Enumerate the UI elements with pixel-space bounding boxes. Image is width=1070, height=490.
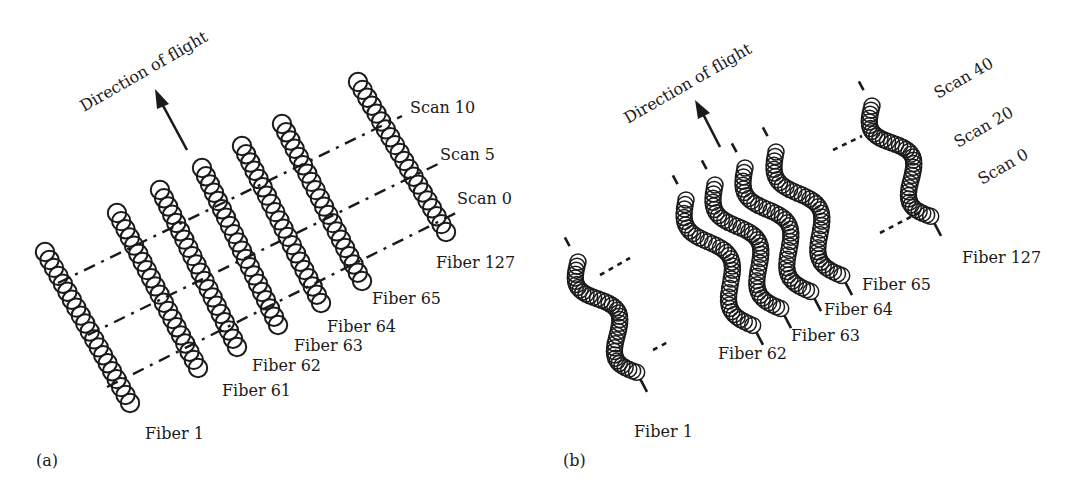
panel-label-a: (a): [36, 451, 58, 470]
fiber-label-1: Fiber 1: [634, 422, 693, 441]
fiber-label-64: Fiber 64: [824, 300, 893, 319]
direction-label: Direction of flight: [621, 39, 756, 128]
scan-label-40: Scan 40: [931, 53, 997, 102]
fiber-label-64: Fiber 64: [327, 317, 396, 336]
scan-label-0: Scan 0: [975, 144, 1032, 188]
fiber-label-62: Fiber 62: [718, 344, 787, 363]
panel-a: Direction of flight Scan 10 Scan 5 Scan …: [36, 27, 515, 470]
panel-b: Direction of flight Scan 40 Scan 20 Scan…: [563, 39, 1041, 470]
scan-label-0: Scan 0: [457, 189, 512, 208]
direction-label: Direction of flight: [77, 27, 212, 116]
scan-label-5: Scan 5: [440, 145, 495, 164]
fiber-scan-diagram: Direction of flight Scan 10 Scan 5 Scan …: [0, 0, 1070, 490]
scan-label-10: Scan 10: [410, 98, 475, 117]
fiber-label-62: Fiber 62: [252, 356, 321, 375]
direction-arrow-icon: [695, 100, 720, 147]
fiber-footprints: [36, 73, 455, 412]
fiber-label-1: Fiber 1: [145, 424, 204, 443]
fiber-label-65: Fiber 65: [372, 289, 441, 308]
fiber-label-61: Fiber 61: [222, 381, 291, 400]
direction-arrow-icon: [155, 89, 187, 150]
fiber-label-127: Fiber 127: [436, 253, 515, 272]
scan-label-20: Scan 20: [951, 102, 1017, 151]
fiber-label-63: Fiber 63: [791, 326, 860, 345]
panel-label-b: (b): [563, 451, 586, 470]
fiber-label-63: Fiber 63: [294, 336, 363, 355]
fiber-label-127: Fiber 127: [962, 248, 1041, 267]
fiber-label-65: Fiber 65: [862, 275, 931, 294]
